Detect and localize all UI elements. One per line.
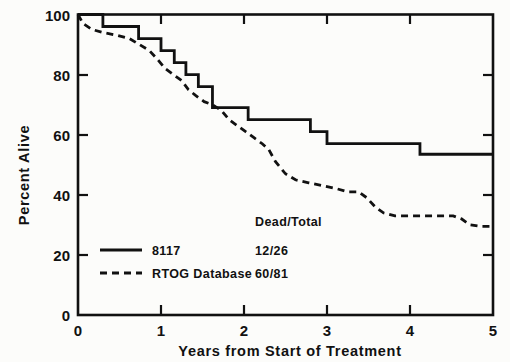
x-tick-label-4: 4: [406, 322, 415, 339]
legend-header: Dead/Total: [255, 215, 322, 229]
x-axis-title: Years from Start of Treatment: [178, 343, 401, 359]
series-line-8117: [78, 15, 493, 155]
x-tick-label-5: 5: [489, 322, 497, 339]
survival-chart-figure: 100 80 60 40 20 0 0 1 2 3 4 5 Percent Al…: [0, 0, 510, 362]
x-tick-label-3: 3: [323, 322, 331, 339]
series-group: [78, 15, 493, 227]
chart-canvas: 100 80 60 40 20 0 0 1 2 3 4 5 Percent Al…: [0, 0, 510, 362]
legend-label-rtog-database: RTOG Database: [152, 267, 252, 281]
legend: Dead/Total 8117 12/26 RTOG Database 60/8…: [100, 215, 322, 281]
legend-label-8117: 8117: [152, 244, 181, 258]
y-tick-label-0: 0: [62, 307, 70, 324]
x-tick-label-1: 1: [157, 322, 165, 339]
legend-value-8117: 12/26: [255, 244, 288, 258]
y-tick-label-60: 60: [53, 127, 70, 144]
y-tick-labels: 100 80 60 40 20 0: [45, 7, 70, 324]
y-axis-title: Percent Alive: [16, 125, 32, 225]
y-tick-label-100: 100: [45, 7, 70, 24]
y-tick-label-20: 20: [53, 247, 70, 264]
legend-value-rtog-database: 60/81: [255, 267, 288, 281]
y-tick-label-40: 40: [53, 187, 70, 204]
x-tick-label-2: 2: [240, 322, 248, 339]
x-tick-labels: 0 1 2 3 4 5: [74, 322, 497, 339]
x-tick-label-0: 0: [74, 322, 82, 339]
y-tick-label-80: 80: [53, 67, 70, 84]
